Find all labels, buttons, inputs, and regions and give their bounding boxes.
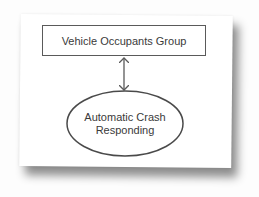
node-label: Vehicle Occupants Group <box>62 35 187 47</box>
node-automatic-crash-responding: Automatic Crash Responding <box>67 91 183 156</box>
node-vehicle-occupants-group: Vehicle Occupants Group <box>42 25 206 56</box>
canvas: Vehicle Occupants Group Automatic Crash … <box>0 0 259 197</box>
node-label-line-1: Automatic Crash <box>84 111 165 124</box>
node-label-line-2: Responding <box>96 124 155 137</box>
